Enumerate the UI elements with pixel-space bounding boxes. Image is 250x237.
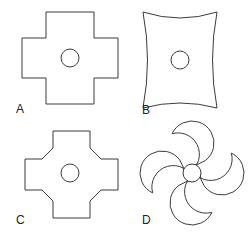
figure-container: A B C D xyxy=(0,0,250,237)
shape-b-label: B xyxy=(142,103,150,117)
shape-a-label: A xyxy=(16,102,24,116)
panel-b: B xyxy=(142,12,217,117)
shape-b-hole xyxy=(171,51,189,69)
shape-a-hole xyxy=(61,49,79,67)
shape-d-hole xyxy=(183,164,201,182)
panel-c: C xyxy=(16,131,118,227)
panel-d: D xyxy=(140,121,244,227)
shape-c-label: C xyxy=(16,213,25,227)
shape-c-hole xyxy=(61,164,79,182)
shape-d-label: D xyxy=(142,213,151,227)
shapes-figure: A B C D xyxy=(0,0,250,237)
panel-a: A xyxy=(16,12,118,116)
